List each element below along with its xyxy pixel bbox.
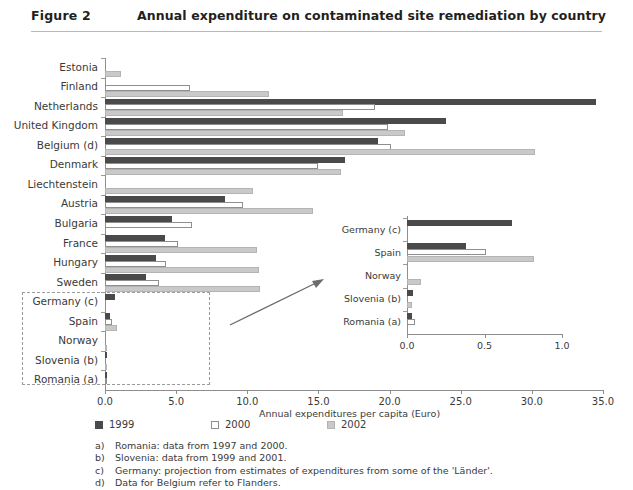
bar-2002 xyxy=(105,267,259,273)
bar-2002 xyxy=(105,188,253,194)
inset-y-axis-label: Slovenia (b) xyxy=(325,293,401,304)
inset-bar-2000 xyxy=(407,319,415,325)
inset-source-highlight-box xyxy=(22,292,210,385)
y-axis-label: Austria xyxy=(0,198,98,209)
y-axis-label: Denmark xyxy=(0,159,98,170)
legend-label-2000: 2000 xyxy=(225,419,250,430)
bar-2002 xyxy=(105,91,269,97)
y-axis-label: Netherlands xyxy=(0,101,98,112)
x-axis-tick-label: 5.0 xyxy=(156,396,196,407)
footnote-c: c)Germany: projection from estimates of … xyxy=(95,465,615,477)
x-axis-tick xyxy=(603,390,604,394)
legend-swatch-2000 xyxy=(211,421,219,429)
footnote-marker: c) xyxy=(95,465,104,477)
x-axis-tick-label: 30.0 xyxy=(512,396,552,407)
x-axis-tick-label: 20.0 xyxy=(370,396,410,407)
inset-x-axis-tick xyxy=(562,334,563,338)
inset-bar-1999 xyxy=(407,290,413,296)
inset-y-axis-label: Germany (c) xyxy=(325,224,401,235)
inset-x-axis-tick xyxy=(407,334,408,338)
bar-2002 xyxy=(105,169,341,175)
inset-y-axis-label: Norway xyxy=(325,270,401,281)
inset-bar-2002 xyxy=(407,256,534,262)
bar-2000 xyxy=(105,222,192,228)
bar-2002 xyxy=(105,110,343,116)
y-axis-label: Bulgaria xyxy=(0,218,98,229)
inset-x-axis-tick-label: 0.5 xyxy=(468,340,502,351)
inset-bar-2000 xyxy=(407,249,486,255)
inset-bar-2002 xyxy=(407,279,421,285)
x-axis-title: Annual expenditures per capita (Euro) xyxy=(0,408,633,419)
inset-bar-1999 xyxy=(407,243,466,249)
footnote-text: Slovenia: data from 1999 and 2001. xyxy=(115,452,286,463)
y-axis-tick xyxy=(101,175,105,176)
inset-y-axis-tick xyxy=(403,264,407,265)
footnote-text: Germany: projection from estimates of ex… xyxy=(115,465,493,476)
inset-bar-1999 xyxy=(407,220,512,226)
x-axis-tick-label: 35.0 xyxy=(583,396,623,407)
y-axis-label: Belgium (d) xyxy=(0,140,98,151)
x-axis-tick-label: 0.0 xyxy=(85,396,125,407)
y-axis-tick xyxy=(101,58,105,59)
inset-bar-2002 xyxy=(407,302,412,308)
x-axis-title-text: Annual expenditures per capita (Euro) xyxy=(259,408,440,419)
x-axis-tick xyxy=(247,390,248,394)
legend-swatch-1999 xyxy=(95,421,103,429)
x-axis-tick xyxy=(532,390,533,394)
y-axis-label: United Kingdom xyxy=(0,120,98,131)
x-axis-tick-label: 15.0 xyxy=(298,396,338,407)
bar-2002 xyxy=(105,130,405,136)
y-axis-label: Estonia xyxy=(0,62,98,73)
inset-x-axis-tick xyxy=(485,334,486,338)
inset-x-axis-tick-label: 1.0 xyxy=(545,340,579,351)
footnote-d: d)Data for Belgium refer to Flanders. xyxy=(95,477,615,489)
legend-label-1999: 1999 xyxy=(109,419,134,430)
y-axis-label: Liechtenstein xyxy=(0,179,98,190)
footnote-a: a)Romania: data from 1997 and 2000. xyxy=(95,440,615,452)
y-axis-label: Sweden xyxy=(0,277,98,288)
footnote-b: b)Slovenia: data from 1999 and 2001. xyxy=(95,452,615,464)
figure-footnotes: a)Romania: data from 1997 and 2000.b)Slo… xyxy=(95,440,615,490)
x-axis-tick-label: 25.0 xyxy=(441,396,481,407)
x-axis-line xyxy=(105,390,603,391)
footnote-text: Romania: data from 1997 and 2000. xyxy=(115,440,288,451)
y-axis-label: Hungary xyxy=(0,257,98,268)
bar-2002 xyxy=(105,208,313,214)
y-axis-tick xyxy=(101,78,105,79)
footnote-marker: a) xyxy=(95,440,105,452)
chart-legend: 199920002002 xyxy=(95,419,395,433)
inset-bar-chart: Germany (c)SpainNorwaySlovenia (b)Romani… xyxy=(325,212,610,367)
legend-label-2002: 2002 xyxy=(341,419,366,430)
inset-y-axis-label: Spain xyxy=(325,247,401,258)
inset-bar-1999 xyxy=(407,313,412,319)
x-axis-tick xyxy=(390,390,391,394)
inset-y-axis-label: Romania (a) xyxy=(325,316,401,327)
x-axis-tick-label: 10.0 xyxy=(227,396,267,407)
inset-y-axis-tick xyxy=(403,218,407,219)
y-axis-label: France xyxy=(0,238,98,249)
x-axis-tick xyxy=(105,390,106,394)
x-axis-tick xyxy=(461,390,462,394)
legend-swatch-2002 xyxy=(327,421,335,429)
bar-2002 xyxy=(105,149,535,155)
footnote-marker: b) xyxy=(95,452,105,464)
inset-x-axis-tick-label: 0.0 xyxy=(390,340,424,351)
x-axis-tick xyxy=(176,390,177,394)
x-axis-tick xyxy=(318,390,319,394)
bar-2002 xyxy=(105,247,257,253)
footnote-marker: d) xyxy=(95,477,105,489)
bar-2002 xyxy=(105,71,121,77)
callout-arrow-icon xyxy=(228,275,328,330)
inset-y-axis-tick xyxy=(403,241,407,242)
y-axis-label: Finland xyxy=(0,81,98,92)
footnote-text: Data for Belgium refer to Flanders. xyxy=(115,477,281,488)
